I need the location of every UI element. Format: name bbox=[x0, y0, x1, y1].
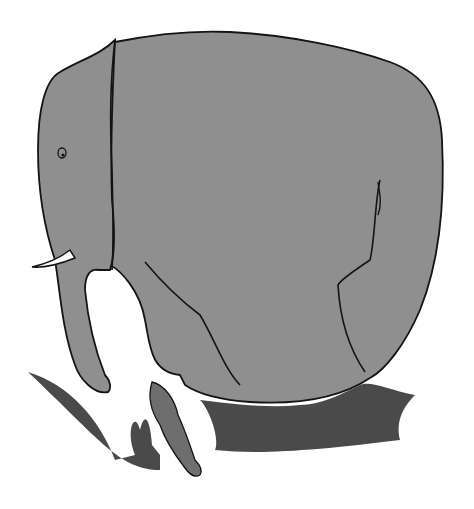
elephant bbox=[32, 32, 443, 403]
elephant-body bbox=[73, 32, 443, 403]
elephant-head bbox=[38, 40, 115, 392]
illustration bbox=[0, 0, 474, 509]
